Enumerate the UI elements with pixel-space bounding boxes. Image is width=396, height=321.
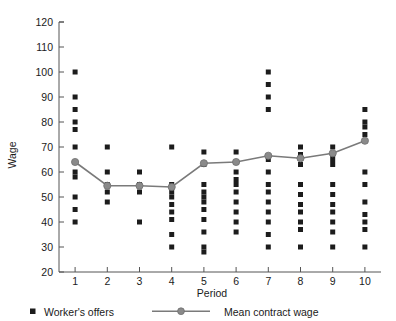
offer-point [362, 245, 367, 250]
x-tick-label: 3 [137, 275, 143, 287]
mean-point [104, 182, 111, 189]
offer-point [234, 230, 239, 235]
mean-point [297, 155, 304, 162]
x-tick-label: 4 [169, 275, 175, 287]
offer-point [73, 120, 78, 125]
offer-point [362, 200, 367, 205]
offer-point [330, 202, 335, 207]
offer-point [137, 170, 142, 175]
y-tick-label: 70 [41, 141, 53, 153]
mean-point [233, 158, 240, 165]
offer-point [298, 227, 303, 232]
offer-point [234, 210, 239, 215]
offer-point [234, 150, 239, 155]
offer-point [266, 95, 271, 100]
y-axis-ticks: 2030405060708090100110120 [35, 16, 64, 278]
offer-point [169, 245, 174, 250]
offer-point [330, 192, 335, 197]
offer-point [298, 145, 303, 150]
offer-point [362, 132, 367, 137]
offer-point [234, 220, 239, 225]
offer-point [330, 245, 335, 250]
offer-point [234, 170, 239, 175]
offer-point [234, 177, 239, 182]
mean-point [329, 150, 336, 157]
offer-point [330, 162, 335, 167]
offer-point [73, 220, 78, 225]
offer-point [298, 245, 303, 250]
offer-point [201, 182, 206, 187]
offer-point [201, 230, 206, 235]
offer-point [169, 145, 174, 150]
legend-label-mean-contract-wage: Mean contract wage [224, 306, 319, 318]
offer-point [330, 157, 335, 162]
wage-period-scatter-chart: 2030405060708090100110120 12345678910 Wa… [0, 0, 396, 321]
offer-point [330, 210, 335, 215]
y-tick-label: 110 [36, 41, 53, 53]
offer-point [169, 217, 174, 222]
legend-circle-icon [178, 308, 185, 315]
y-axis-title: Wage [6, 141, 18, 168]
x-tick-label: 9 [330, 275, 336, 287]
mean-point [361, 137, 368, 144]
offer-point [298, 182, 303, 187]
offer-point [201, 207, 206, 212]
y-tick-label: 100 [35, 66, 53, 78]
offer-point [105, 190, 110, 195]
x-tick-label: 6 [233, 275, 239, 287]
legend-label-workers-offers: Worker's offers [44, 306, 114, 318]
offer-point [201, 195, 206, 200]
offer-point [266, 220, 271, 225]
mean-point [168, 183, 175, 190]
x-tick-label: 7 [265, 275, 271, 287]
offer-point [201, 200, 206, 205]
chart-figure: 2030405060708090100110120 12345678910 Wa… [0, 0, 396, 321]
offer-point [137, 190, 142, 195]
offer-point [362, 107, 367, 112]
offer-point [201, 250, 206, 255]
offer-point [330, 230, 335, 235]
x-tick-label: 5 [201, 275, 207, 287]
offer-point [298, 220, 303, 225]
mean-contract-wage-markers [72, 137, 369, 190]
offer-point [266, 82, 271, 87]
offer-point [73, 107, 78, 112]
mean-point [265, 152, 272, 159]
offer-point [73, 195, 78, 200]
mean-contract-wage-line [75, 141, 365, 187]
offer-point [169, 232, 174, 237]
offer-point [298, 202, 303, 207]
offer-point [73, 95, 78, 100]
legend: Worker's offers Mean contract wage [30, 306, 319, 318]
offer-point [201, 245, 206, 250]
offer-point [73, 127, 78, 132]
offer-point [330, 182, 335, 187]
y-tick-label: 60 [41, 166, 53, 178]
x-axis-ticks: 12345678910 [72, 267, 371, 287]
offer-point [201, 150, 206, 155]
offer-point [266, 245, 271, 250]
mean-point [200, 160, 207, 167]
offer-point [362, 182, 367, 187]
offer-point [105, 200, 110, 205]
offer-point [362, 170, 367, 175]
offer-point [73, 175, 78, 180]
x-axis-title: Period [197, 287, 228, 299]
offer-point [73, 145, 78, 150]
offer-point [169, 210, 174, 215]
offer-point [266, 190, 271, 195]
offer-point [362, 125, 367, 130]
legend-square-icon [30, 309, 36, 315]
offer-point [169, 202, 174, 207]
y-tick-label: 40 [41, 216, 53, 228]
offer-point [137, 220, 142, 225]
offer-point [266, 170, 271, 175]
offer-point [330, 220, 335, 225]
mean-point [136, 182, 143, 189]
offer-point [298, 162, 303, 167]
offer-point [330, 145, 335, 150]
offer-point [234, 200, 239, 205]
offer-point [266, 200, 271, 205]
offer-point [73, 207, 78, 212]
y-tick-label: 120 [35, 16, 53, 28]
